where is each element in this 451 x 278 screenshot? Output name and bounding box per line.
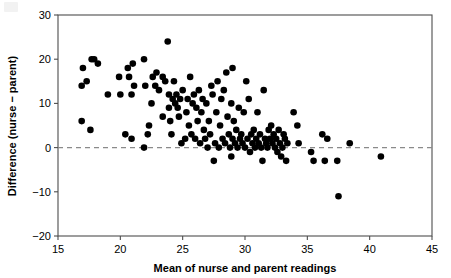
data-point [228,100,235,107]
x-tick-label: 45 [426,243,438,255]
data-point [128,135,135,142]
data-point [310,158,317,165]
data-point [130,60,137,67]
data-point [206,118,213,125]
data-point [378,153,385,160]
data-point [197,140,204,147]
data-point [179,87,186,94]
data-point [162,78,169,85]
data-point [148,100,155,107]
data-point [166,105,173,112]
data-point [122,131,129,138]
figure-container: 15202530354045 3020100−10−20 Mean of nur… [0,0,451,278]
data-point [95,60,102,67]
data-point [260,87,267,94]
data-point [335,193,342,200]
x-tick-label: 15 [52,243,64,255]
data-point [202,135,209,142]
data-point [224,113,231,120]
data-point [268,122,275,129]
data-point [275,127,282,134]
data-point [229,65,236,72]
data-point [168,131,175,138]
data-point [164,38,171,45]
data-point [223,69,230,76]
data-point [264,144,271,151]
y-tick-label: −10 [32,186,51,198]
data-point [141,144,148,151]
data-point [257,131,264,138]
data-point [204,144,211,151]
x-tick-label: 20 [114,243,126,255]
data-point [233,127,240,134]
x-tick-label: 25 [177,243,189,255]
data-point [146,122,153,129]
data-point [283,158,290,165]
x-tick-label: 30 [239,243,251,255]
plot-frame [58,15,432,236]
scatter-plot-svg: 15202530354045 3020100−10−20 Mean of nur… [0,0,451,278]
data-points [78,38,384,199]
data-point [324,135,331,142]
data-point [201,127,208,134]
axis-ticks [54,15,432,240]
data-point [258,144,265,151]
data-point [116,74,123,81]
data-point [159,113,166,120]
data-point [222,140,229,147]
data-point [153,69,160,76]
data-point [278,153,285,160]
data-point [247,149,254,156]
data-point [171,78,178,85]
data-point [78,118,85,125]
data-point [78,82,85,89]
data-point [83,78,90,85]
data-point [184,96,191,103]
data-point [196,87,203,94]
y-tick-label: 30 [39,9,51,21]
data-point [183,109,190,116]
data-point [279,144,286,151]
data-point [211,158,218,165]
data-point [203,100,210,107]
data-point [198,109,205,116]
data-point [131,82,138,89]
data-point [144,131,151,138]
data-point [192,135,199,142]
data-point [125,65,132,72]
data-point [346,140,353,147]
x-axis-tick-labels: 15202530354045 [52,243,438,255]
data-point [182,135,189,142]
data-point [128,91,135,98]
data-point [217,122,224,129]
data-point [238,131,245,138]
data-point [259,158,266,165]
data-point [214,78,221,85]
data-point [105,91,112,98]
data-point [186,122,193,129]
data-point [250,127,257,134]
data-point [245,96,252,103]
data-point [87,127,94,134]
data-point [117,91,124,98]
data-point [216,144,223,151]
x-axis-title: Mean of nurse and parent readings [154,262,337,274]
data-point [156,87,163,94]
x-tick-label: 40 [364,243,376,255]
data-point [284,140,291,147]
data-point [234,144,241,151]
data-point [242,144,249,151]
data-point [141,56,148,63]
data-point [218,96,225,103]
data-point [209,91,216,98]
data-point [308,149,315,156]
data-point [174,105,181,112]
data-point [295,140,302,147]
data-point [177,96,184,103]
data-point [319,131,326,138]
y-tick-label: −20 [32,230,51,242]
data-point [167,118,174,125]
data-point [230,118,237,125]
data-point [194,118,201,125]
y-axis-title: Difference (nurse − parent) [6,56,18,197]
